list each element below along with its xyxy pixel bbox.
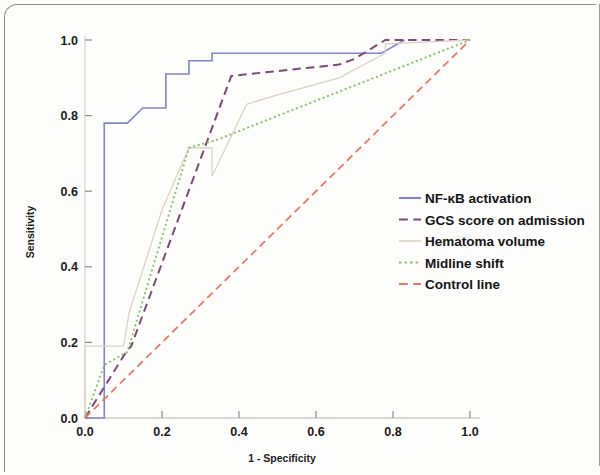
series-line-nf-b-activation xyxy=(85,40,405,418)
roc-plot-svg: 0.00.20.40.60.81.0 0.00.20.40.60.81.0 1 … xyxy=(0,0,600,475)
x-tick-label: 0.0 xyxy=(76,425,93,439)
legend-label: Control line xyxy=(425,277,500,292)
chart-legend: NF-κB activationGCS score on admissionHe… xyxy=(399,191,585,292)
data-series-group xyxy=(85,40,470,418)
x-tick-label: 0.6 xyxy=(307,425,324,439)
y-tick-label: 0.4 xyxy=(61,260,78,274)
roc-curve-figure: 0.00.20.40.60.81.0 0.00.20.40.60.81.0 1 … xyxy=(0,0,600,475)
legend-label: GCS score on admission xyxy=(425,213,585,228)
series-line-control-line xyxy=(85,40,470,418)
legend-label: Hematoma volume xyxy=(425,234,546,249)
x-tick-label: 0.2 xyxy=(153,425,170,439)
x-axis-ticks: 0.00.20.40.60.81.0 xyxy=(76,411,478,439)
y-tick-label: 0.2 xyxy=(61,336,78,350)
y-tick-label: 0.8 xyxy=(61,109,78,123)
y-tick-label: 0.0 xyxy=(61,412,78,426)
legend-label: Midline shift xyxy=(425,256,504,271)
y-tick-label: 1.0 xyxy=(61,34,78,48)
y-axis-title: Sensitivity xyxy=(24,206,36,259)
legend-label: NF-κB activation xyxy=(425,191,532,206)
y-axis-ticks: 0.00.20.40.60.81.0 xyxy=(61,34,92,426)
y-tick-label: 0.6 xyxy=(61,185,78,199)
x-tick-label: 0.8 xyxy=(384,425,401,439)
x-axis-title: 1 - Specificity xyxy=(248,452,316,464)
x-tick-label: 1.0 xyxy=(461,425,478,439)
x-tick-label: 0.4 xyxy=(230,425,247,439)
